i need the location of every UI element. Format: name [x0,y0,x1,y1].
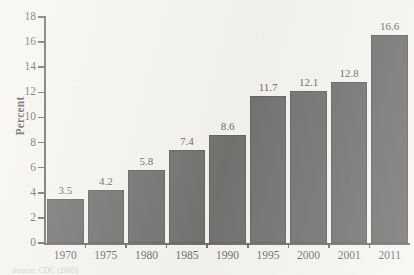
x-axis-line [44,243,410,245]
x-tick-mark [85,243,87,248]
y-tick-label: 16 [0,36,36,48]
source-note: Source: CDC (2005) [12,266,78,275]
bar [250,96,287,243]
plot-area: 3.54.25.87.48.611.712.112.816.6 [45,17,410,243]
x-tick-label: 1990 [207,250,248,262]
y-tick-label: 8 [0,137,36,149]
bar [209,135,246,243]
bar-value-label: 4.2 [88,176,125,187]
x-tick-label: 1970 [45,250,86,262]
x-tick-mark [288,243,290,248]
x-tick-label: 2000 [288,250,329,262]
x-tick-label: 1985 [167,250,208,262]
y-tick-label: 6 [0,162,36,174]
x-tick-label: 1980 [126,250,167,262]
x-tick-mark [369,243,371,248]
x-tick-label: 1975 [86,250,127,262]
bar-value-label: 12.8 [331,68,368,79]
bar [331,82,368,243]
x-tick-mark [328,243,330,248]
x-tick-label: 2001 [329,250,370,262]
bar-value-label: 5.8 [128,156,165,167]
bar-value-label: 12.1 [290,77,327,88]
bar [169,150,206,243]
bar-value-label: 8.6 [209,121,246,132]
y-tick-label: 18 [0,11,36,23]
bar-chart-figure: Percent 024681012141618 3.54.25.87.48.61… [0,0,414,275]
x-tick-mark [125,243,127,248]
bar-value-label: 3.5 [47,185,84,196]
x-tick-mark [166,243,168,248]
x-tick-mark [247,243,249,248]
bar-value-label: 16.6 [371,21,408,32]
y-tick-label: 0 [0,237,36,249]
bar [128,170,165,243]
bar [371,35,408,243]
y-tick-label: 4 [0,187,36,199]
bar-value-label: 7.4 [169,136,206,147]
x-tick-label: 2011 [369,250,410,262]
y-tick-label: 10 [0,111,36,123]
bar-value-label: 11.7 [250,82,287,93]
y-tick-label: 12 [0,86,36,98]
bar [290,91,327,243]
bar [47,199,84,243]
x-tick-mark [206,243,208,248]
bar [88,190,125,243]
y-tick-label: 2 [0,212,36,224]
x-tick-label: 1995 [248,250,289,262]
y-tick-label: 14 [0,61,36,73]
